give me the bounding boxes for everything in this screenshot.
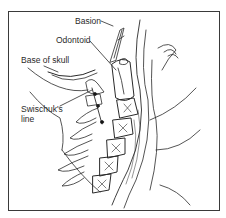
basion-bone	[110, 28, 124, 62]
vertebral-bodies	[93, 98, 138, 193]
label-swischuks-text: Swischuk's	[21, 104, 63, 114]
odontoid-c2	[112, 58, 134, 100]
label-basion: Basion	[75, 16, 101, 26]
skull-base	[28, 68, 97, 91]
label-line-text: line	[21, 114, 63, 124]
soft-tissue-airway	[112, 20, 200, 208]
label-odontoid: Odontoid	[56, 35, 91, 45]
label-base-of-skull: Base of skull	[21, 55, 69, 65]
label-swischuks-line: Swischuk's line	[21, 104, 63, 124]
